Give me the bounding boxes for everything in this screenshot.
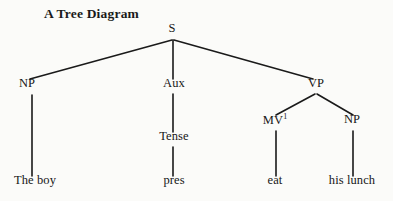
tree-edge-s-to-vp	[174, 40, 313, 79]
tree-node-label: eat	[268, 173, 283, 187]
tree-node-label: NP	[344, 112, 360, 126]
tree-node-label: VP	[308, 76, 324, 90]
tree-node-tense: Tense	[159, 129, 188, 144]
tree-node-label: The boy	[14, 173, 56, 187]
tree-node-label: pres	[163, 173, 184, 187]
tree-node-his-lunch: his lunch	[329, 173, 375, 188]
tree-node-the-boy: The boy	[14, 173, 56, 188]
tree-node-vp: VP	[308, 76, 324, 91]
tree-edge-s-to-np-left	[30, 40, 172, 79]
tree-node-eat: eat	[268, 173, 283, 188]
tree-node-s: S	[168, 21, 175, 36]
tree-node-label: S	[168, 21, 175, 35]
tree-node-np-left: NP	[19, 76, 35, 91]
tree-diagram-figure: A Tree Diagram SNPAuxVPMV1NPTenseThe boy…	[0, 0, 393, 201]
tree-node-np-right: NP	[344, 112, 360, 127]
tree-node-superscript: 1	[283, 112, 287, 121]
tree-node-aux: Aux	[163, 76, 185, 91]
tree-node-label: NP	[19, 76, 35, 90]
tree-node-label: MV	[263, 113, 283, 127]
tree-node-label: Aux	[163, 76, 185, 90]
tree-node-label: his lunch	[329, 173, 375, 187]
tree-node-mv: MV1	[263, 112, 287, 128]
edges-group	[30, 40, 353, 176]
tree-edges-layer	[0, 0, 393, 201]
tree-node-pres: pres	[163, 173, 184, 188]
tree-node-label: Tense	[159, 129, 188, 143]
